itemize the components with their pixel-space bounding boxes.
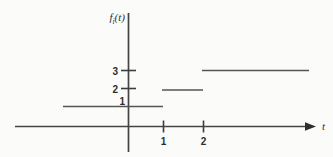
step-function-figure: 3 2 1 1 2 fi(t) t <box>0 0 333 157</box>
x-tick-label-1: 1 <box>161 136 167 147</box>
y-axis-title-args: (t) <box>115 11 126 24</box>
step-function-plot: 3 2 1 1 2 fi(t) t <box>0 0 333 157</box>
y-tick-label-3: 3 <box>112 66 118 77</box>
x-axis-arrowhead-icon <box>305 122 316 131</box>
x-axis-title: t <box>322 120 326 132</box>
y-tick-label-2: 2 <box>112 84 118 95</box>
x-tick-label-2: 2 <box>201 136 207 147</box>
y-tick-label-1: 1 <box>119 96 125 107</box>
y-axis-title: fi(t) <box>109 11 125 26</box>
